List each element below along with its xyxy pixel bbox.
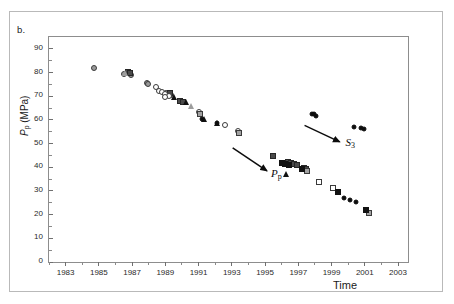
y-tick-label: 90	[19, 43, 43, 52]
data-point-open-circle	[222, 122, 228, 128]
x-minor-tick-mark	[215, 262, 216, 265]
x-tick-label: 2003	[382, 268, 414, 277]
x-tick-label: 1999	[316, 268, 348, 277]
data-point-filled-square	[363, 207, 369, 213]
data-point-open-square	[316, 179, 322, 185]
y-tick-label: 30	[19, 185, 43, 194]
y-tick-mark	[49, 119, 53, 120]
y-axis-label-symbol: P	[19, 129, 30, 136]
data-point-filled-circle	[353, 199, 358, 204]
triangle-glyph	[171, 94, 177, 100]
y-tick-mark	[49, 143, 53, 144]
x-minor-tick-mark	[381, 262, 382, 265]
data-point-dark-square	[127, 70, 133, 76]
data-point-filled-square	[335, 189, 341, 195]
y-minor-tick-mark	[49, 131, 52, 132]
x-minor-tick-mark	[148, 262, 149, 265]
x-tick-label: 1987	[116, 268, 148, 277]
x-tick-label: 1997	[282, 268, 314, 277]
x-tick-mark	[265, 262, 266, 266]
x-minor-tick-mark	[82, 262, 83, 265]
y-tick-label: 10	[19, 232, 43, 241]
y-tick-mark	[49, 214, 53, 215]
x-tick-label: 1991	[183, 268, 215, 277]
x-tick-label: 1983	[50, 268, 82, 277]
y-axis-label-subscript: p	[23, 126, 30, 130]
y-minor-tick-mark	[49, 108, 52, 109]
y-tick-label: 0	[19, 256, 43, 265]
y-minor-tick-mark	[49, 250, 52, 251]
x-tick-mark	[398, 262, 399, 266]
x-minor-tick-mark	[348, 262, 349, 265]
y-tick-label: 50	[19, 138, 43, 147]
x-minor-tick-mark	[181, 262, 182, 265]
y-minor-tick-mark	[49, 202, 52, 203]
data-point-filled-circle	[214, 121, 219, 126]
plot-area: 0102030405060708090198319851987198919911…	[48, 36, 409, 263]
x-axis-label-wrap: Time	[0, 279, 454, 291]
y-minor-tick-mark	[49, 155, 52, 156]
triangle-glyph	[188, 103, 194, 109]
y-tick-mark	[49, 190, 53, 191]
x-minor-tick-mark	[314, 262, 315, 265]
data-point-gray-square	[236, 130, 242, 136]
y-tick-label: 40	[19, 161, 43, 170]
y-tick-mark	[49, 48, 53, 49]
y-minor-tick-mark	[49, 60, 52, 61]
triangle-glyph	[122, 70, 128, 76]
y-tick-mark	[49, 167, 53, 168]
data-layer: 0102030405060708090198319851987198919911…	[49, 37, 408, 262]
data-point-filled-square	[286, 162, 292, 168]
x-tick-mark	[98, 262, 99, 266]
figure-panel-b: b. Pp (MPa) Time 01020304050607080901983…	[0, 0, 454, 304]
data-point-filled-circle	[361, 127, 366, 132]
y-tick-mark	[49, 96, 53, 97]
data-point-gray-circle	[91, 65, 97, 71]
x-tick-mark	[231, 262, 232, 266]
x-tick-mark	[331, 262, 332, 266]
data-point-open-circle	[162, 94, 168, 100]
data-point-filled-circle	[313, 113, 318, 118]
data-point-filled-square	[299, 166, 305, 172]
y-minor-tick-mark	[49, 179, 52, 180]
x-minor-tick-mark	[115, 262, 116, 265]
x-minor-tick-mark	[281, 262, 282, 265]
y-tick-label: 70	[19, 90, 43, 99]
y-minor-tick-mark	[49, 226, 52, 227]
y-tick-label: 20	[19, 209, 43, 218]
data-point-dark-square	[270, 153, 276, 159]
x-minor-tick-mark	[248, 262, 249, 265]
data-point-filled-circle	[199, 117, 204, 122]
y-tick-mark	[49, 72, 53, 73]
x-tick-label: 1989	[149, 268, 181, 277]
x-tick-mark	[364, 262, 365, 266]
y-tick-mark	[49, 238, 53, 239]
y-tick-label: 60	[19, 114, 43, 123]
x-axis-label: Time	[333, 279, 357, 291]
x-tick-label: 2001	[349, 268, 381, 277]
x-tick-mark	[132, 262, 133, 266]
data-point-filled-circle	[351, 124, 356, 129]
x-tick-mark	[298, 262, 299, 266]
x-tick-mark	[165, 262, 166, 266]
y-tick-mark	[49, 262, 53, 263]
x-tick-mark	[198, 262, 199, 266]
x-minor-tick-mark	[49, 262, 50, 265]
data-point-filled-circle	[347, 198, 352, 203]
data-point-filled-circle	[342, 196, 347, 201]
x-tick-label: 1985	[83, 268, 115, 277]
y-tick-label: 80	[19, 67, 43, 76]
panel-label: b.	[17, 24, 25, 35]
x-tick-label: 1995	[249, 268, 281, 277]
data-point-gray-circle	[145, 81, 151, 87]
y-minor-tick-mark	[49, 84, 52, 85]
triangle-glyph	[283, 171, 289, 177]
x-tick-label: 1993	[216, 268, 248, 277]
x-tick-mark	[65, 262, 66, 266]
